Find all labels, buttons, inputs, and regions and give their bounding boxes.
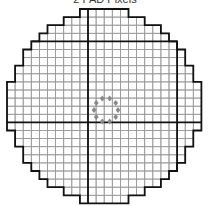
pixel-cell [120,131,128,139]
pixel-cell [104,171,112,179]
pixel-cell [64,155,72,163]
pixel-cell [137,139,145,147]
pixel-cell [48,106,56,114]
pixel-cell [88,82,96,90]
pixel-cell [96,74,104,82]
pixel-cell [129,58,137,66]
pixel-cell [161,82,169,90]
pixel-cell [48,171,56,179]
pixel-cell [80,114,88,122]
pixel-cell [88,66,96,74]
pixel-cell [120,74,128,82]
pixel-cell [177,98,185,106]
pixel-cell [56,25,64,33]
pixel-cell [39,114,47,122]
pixel-cell [161,114,169,122]
pixel-cell [48,82,56,90]
pixel-cell [129,171,137,179]
pixel-cell [31,147,39,155]
pixel-cell [31,106,39,114]
pixel-cell [112,33,120,41]
pixel-cell [39,90,47,98]
pixel-cell [56,106,64,114]
pixel-cell [177,50,185,58]
pixel-cell [56,74,64,82]
pixel-cell [145,50,153,58]
pixel-cell [64,171,72,179]
pixel-cell [145,41,153,49]
pixel-cell [185,106,193,114]
pixel-cell [48,114,56,122]
pixel-cell [185,139,193,147]
pixel-cell [23,98,31,106]
pixel-cell [137,50,145,58]
pixel-cell [120,9,128,17]
pixel-cell [80,171,88,179]
pixel-cell [153,74,161,82]
pixel-cell [120,90,128,98]
pixel-cell [137,106,145,114]
pixel-cell [120,114,128,122]
pixel-cell [7,90,15,98]
pixel-cell [161,163,169,171]
pixel-cell [72,106,80,114]
pixel-cell [31,98,39,106]
pixel-cell [39,122,47,130]
pixel-cell [112,139,120,147]
pixel-cell [104,131,112,139]
pixel-cell [112,41,120,49]
pixel-cell [88,74,96,82]
pixel-cell [80,9,88,17]
pixel-cell [177,90,185,98]
pixel-cell [39,163,47,171]
pixel-cell [88,90,96,98]
pixel-cell [56,139,64,147]
diamond-marker-icon [116,107,121,113]
pixel-cell [129,179,137,187]
pixel-cell [137,131,145,139]
pixel-cell [88,163,96,171]
pixel-cell [112,131,120,139]
pixel-cell [104,155,112,163]
pixel-cell [153,33,161,41]
pixel-cell [120,66,128,74]
pixel-cell [145,179,153,187]
pixel-cell [145,25,153,33]
pixel-cell [129,33,137,41]
pixel-cell [48,50,56,58]
pixel-cell [185,82,193,90]
pixel-cell [96,58,104,66]
pixel-cell [56,82,64,90]
pixel-cell [96,139,104,147]
pixel-cell [39,106,47,114]
pixel-cell [177,155,185,163]
pixel-cell [80,98,88,106]
pixel-cell [137,41,145,49]
pixel-cell [145,147,153,155]
pixel-cell [153,114,161,122]
pixel-cell [48,66,56,74]
pixel-cell [39,131,47,139]
pixel-cell [80,74,88,82]
pixel-cell [88,179,96,187]
pixel-cell [48,74,56,82]
pixel-cell [185,114,193,122]
pixel-cell [112,17,120,25]
pixel-cell [88,25,96,33]
pixel-cell [88,147,96,155]
pixel-cell [161,98,169,106]
diamond-marker-icon [94,100,99,106]
pixel-cell [15,66,23,74]
pixel-cell [169,147,177,155]
pixel-cell [112,179,120,187]
pixel-cell [129,98,137,106]
pixel-cell [145,90,153,98]
pixel-cell [137,163,145,171]
pixel-cell [145,139,153,147]
pixel-cell [112,82,120,90]
pixel-cell [120,122,128,130]
pixel-cell [177,147,185,155]
pixel-cell [177,106,185,114]
pixel-cell [15,90,23,98]
pixel-cell [31,74,39,82]
